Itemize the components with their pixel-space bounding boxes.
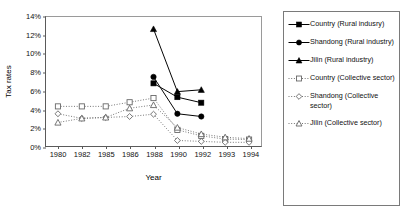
legend-marker-open-triangle-icon — [288, 119, 310, 128]
x-tick-mark — [82, 146, 83, 149]
legend-item[interactable]: Jilin (Collective sector) — [288, 118, 395, 128]
data-point — [150, 26, 156, 32]
x-axis-title: Year — [45, 173, 262, 182]
legend-marker-filled-square-icon — [288, 20, 310, 29]
data-point — [127, 105, 133, 111]
legend-item[interactable]: Shandong (Collective sector) — [288, 91, 395, 110]
y-tick-label: 2% — [30, 126, 41, 134]
data-point — [127, 114, 133, 120]
x-tick-mark — [251, 146, 252, 149]
x-tick-label: 1994 — [243, 151, 260, 159]
x-tick-mark — [155, 146, 156, 149]
data-point — [199, 100, 204, 105]
x-axis-title-label: Year — [145, 173, 161, 182]
y-tick-label: 0% — [30, 144, 41, 152]
data-point — [175, 111, 180, 116]
legend-marker-open-square-icon — [288, 74, 310, 83]
data-point — [150, 102, 156, 108]
x-tick-mark — [179, 146, 180, 149]
legend-item-label: Shandong (Collective sector) — [310, 91, 395, 110]
series-line — [58, 105, 249, 139]
x-tick-label: 1986 — [122, 151, 139, 159]
y-tick-label: 14% — [26, 13, 41, 21]
legend-item-label: Country (Rural indusry) — [310, 19, 384, 29]
data-point — [151, 81, 156, 86]
x-tick-label: 1990 — [170, 151, 187, 159]
x-tick-label: 1993 — [218, 151, 235, 159]
legend-marker-filled-circle-icon — [288, 38, 310, 47]
legend-item-label: Jilin (Rural industry) — [310, 55, 374, 65]
data-point — [199, 114, 204, 119]
legend-item-label: Shandong (Rural industry) — [310, 37, 394, 47]
x-tick-mark — [203, 146, 204, 149]
plot-area: 0%2%4%6%8%10%12%14% 19801982198519861988… — [45, 16, 262, 147]
data-point — [55, 111, 61, 117]
chart-figure: Tax rates 0%2%4%6%8%10%12%14% 1980198219… — [0, 0, 408, 216]
legend-item-label: Country (Collective sector) — [310, 73, 395, 83]
x-tick-label: 1992 — [194, 151, 211, 159]
y-tick-label: 8% — [30, 69, 41, 77]
series-line — [154, 29, 202, 92]
legend-marker-open-diamond-icon — [288, 92, 310, 101]
data-point — [127, 100, 132, 105]
x-tick-mark — [227, 146, 228, 149]
legend-item[interactable]: Country (Rural indusry) — [288, 19, 395, 29]
x-tick-label: 1982 — [74, 151, 91, 159]
y-axis-title: Tax rates — [2, 16, 14, 147]
x-tick-label: 1988 — [146, 151, 163, 159]
chart-legend: Country (Rural indusry)Shandong (Rural i… — [283, 11, 400, 206]
x-tick-mark — [106, 146, 107, 149]
data-point — [151, 96, 156, 101]
data-point — [103, 104, 108, 109]
y-tick-label: 6% — [30, 88, 41, 96]
legend-item[interactable]: Jilin (Rural industry) — [288, 55, 395, 65]
data-series-layer — [46, 17, 261, 146]
data-point — [79, 104, 84, 109]
y-tick-label: 10% — [26, 51, 41, 59]
legend-marker-filled-triangle-icon — [288, 56, 310, 65]
y-tick-mark — [43, 148, 46, 149]
x-tick-mark — [130, 146, 131, 149]
legend-item[interactable]: Shandong (Rural industry) — [288, 37, 395, 47]
legend-item-label: Jilin (Collective sector) — [310, 118, 382, 128]
data-point — [198, 138, 204, 144]
y-axis-title-label: Tax rates — [4, 65, 13, 97]
y-tick-label: 12% — [26, 32, 41, 40]
x-tick-label: 1980 — [50, 151, 67, 159]
legend-item[interactable]: Country (Collective sector) — [288, 73, 395, 83]
data-point — [55, 119, 61, 125]
y-tick-label: 4% — [30, 107, 41, 115]
x-tick-label: 1985 — [98, 151, 115, 159]
x-tick-mark — [58, 146, 59, 149]
data-point — [175, 95, 180, 100]
data-point — [55, 104, 60, 109]
data-point — [151, 74, 156, 79]
